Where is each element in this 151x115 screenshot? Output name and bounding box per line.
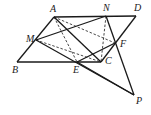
label-point-B: B — [12, 64, 18, 75]
segment-AD — [54, 16, 136, 17]
label-point-M: M — [25, 33, 35, 44]
label-point-D: D — [133, 2, 142, 13]
segment-AB — [17, 17, 54, 62]
segment-AE — [54, 17, 77, 62]
dashed-segments — [36, 16, 115, 62]
label-point-C: C — [105, 55, 112, 66]
label-point-E: E — [72, 64, 79, 75]
segment-AC — [54, 17, 101, 62]
segment-EP — [77, 62, 134, 95]
geometry-diagram: ANDMFBECP — [0, 0, 151, 115]
label-point-P: P — [135, 95, 142, 106]
label-point-N: N — [102, 2, 111, 13]
solid-segments — [17, 16, 136, 95]
label-point-A: A — [49, 3, 57, 14]
segment-MN — [36, 16, 106, 40]
label-point-F: F — [119, 38, 127, 49]
